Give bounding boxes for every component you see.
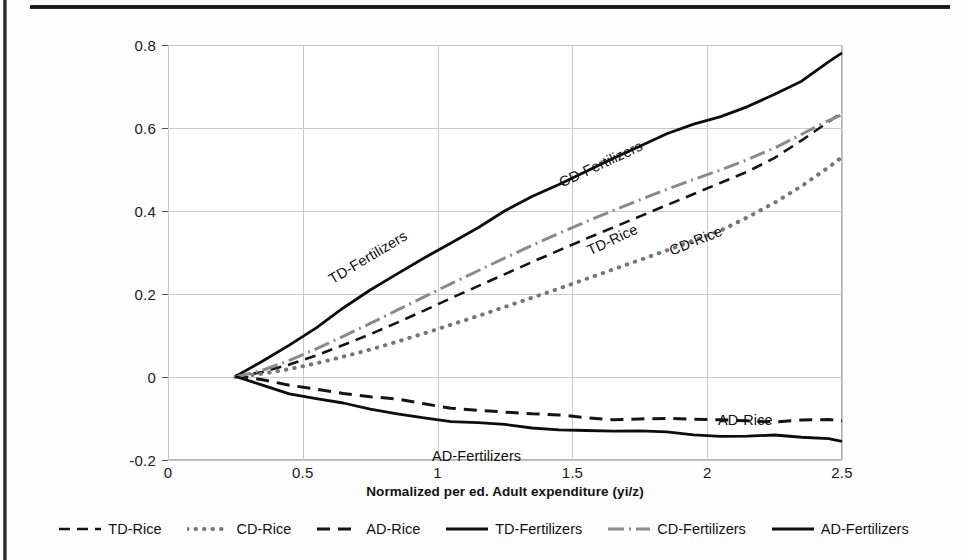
gridline-horizontal [168,294,842,295]
series-annotation-ad-fertilizers: AD-Fertilizers [432,448,521,464]
y-tick-label: 0.6 [94,120,156,137]
x-tick-label: 2.5 [812,464,872,481]
legend-swatch-icon [187,523,229,535]
y-tick-mark [162,460,168,461]
legend-swatch-icon [772,523,814,535]
legend-item-ad-rice: AD-Rice [317,521,420,537]
x-tick-label: 0.5 [273,464,333,481]
y-tick-label: 0.4 [94,203,156,220]
y-tick-label: 0 [94,369,156,386]
y-tick-label: 0.2 [94,286,156,303]
legend-swatch-icon [608,523,650,535]
series-annotation-ad-rice: AD-Rice [718,412,773,428]
legend-swatch-icon [317,523,359,535]
y-tick-mark [162,377,168,378]
legend-label: AD-Fertilizers [821,521,909,537]
x-tick-label: 0 [138,464,198,481]
line-chart: 0.80.60.40.20-0.2 00.511.522.5 TD-Fertil… [0,0,968,560]
legend-label: AD-Rice [366,521,420,537]
legend-item-td-fertilizers: TD-Fertilizers [446,521,582,537]
x-axis-title: Normalized per ed. Adult expenditure (yi… [168,484,842,499]
gridline-horizontal [168,377,842,378]
figure-page: 0.80.60.40.20-0.2 00.511.522.5 TD-Fertil… [0,0,968,560]
y-tick-mark [162,211,168,212]
y-tick-label: 0.8 [94,37,156,54]
plot-area [168,45,842,460]
legend-item-cd-fertilizers: CD-Fertilizers [608,521,746,537]
gridline-vertical [842,45,843,460]
legend-label: CD-Rice [236,521,291,537]
legend-label: TD-Fertilizers [495,521,582,537]
x-tick-label: 1.5 [542,464,602,481]
chart-legend: TD-RiceCD-RiceAD-RiceTD-FertilizersCD-Fe… [0,521,968,537]
legend-item-ad-fertilizers: AD-Fertilizers [772,521,909,537]
gridline-vertical [168,45,169,460]
y-tick-mark [162,294,168,295]
legend-item-td-rice: TD-Rice [59,521,161,537]
legend-label: CD-Fertilizers [657,521,746,537]
gridline-horizontal [168,128,842,129]
gridline-vertical [572,45,573,460]
gridline-vertical [303,45,304,460]
gridline-vertical [438,45,439,460]
x-tick-label: 2 [677,464,737,481]
y-tick-mark [162,45,168,46]
gridline-horizontal [168,211,842,212]
gridline-horizontal [168,45,842,46]
x-tick-label: 1 [408,464,468,481]
legend-label: TD-Rice [108,521,161,537]
gridline-vertical [707,45,708,460]
legend-item-cd-rice: CD-Rice [187,521,291,537]
y-tick-mark [162,128,168,129]
legend-swatch-icon [59,523,101,535]
legend-swatch-icon [446,523,488,535]
